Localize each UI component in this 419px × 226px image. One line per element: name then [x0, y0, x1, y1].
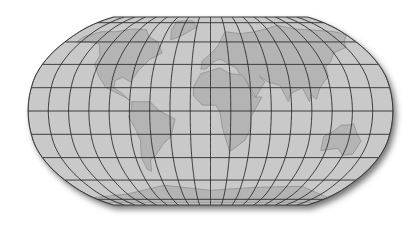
robinson-projection-map	[0, 0, 419, 226]
world-map	[0, 0, 419, 226]
